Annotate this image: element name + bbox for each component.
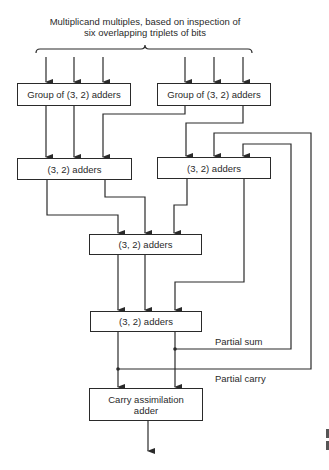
input-brace xyxy=(36,45,252,53)
carry-assimilation-line1: Carry assimilation xyxy=(108,394,184,405)
carry-assimilation-adder: Carry assimilation adder xyxy=(89,388,203,421)
group-adders-right: Group of (3, 2) adders xyxy=(157,83,271,106)
level2-adders-right: (3, 2) adders xyxy=(157,157,271,179)
group-adders-left-label: Group of (3, 2) adders xyxy=(27,89,120,100)
partial-carry-label: Partial carry xyxy=(215,373,266,384)
group-adders-right-label: Group of (3, 2) adders xyxy=(167,89,260,100)
level2-adders-left: (3, 2) adders xyxy=(17,158,132,180)
partial-sum-label: Partial sum xyxy=(215,336,263,347)
partial-carry-junction xyxy=(116,367,120,371)
level3-adders: (3, 2) adders xyxy=(89,234,202,255)
inputs-caption: Multiplicand multiples, based on inspect… xyxy=(0,16,290,38)
level4-adders: (3, 2) adders xyxy=(90,311,202,332)
inputs-caption-line1: Multiplicand multiples, based on inspect… xyxy=(0,16,290,27)
partial-sum-junction xyxy=(173,347,177,351)
level4-adders-label: (3, 2) adders xyxy=(119,316,173,327)
carry-assimilation-line2: adder xyxy=(134,405,158,416)
level2-adders-right-label: (3, 2) adders xyxy=(187,163,241,174)
inputs-caption-line2: six overlapping triplets of bits xyxy=(0,27,290,38)
level2-adders-left-label: (3, 2) adders xyxy=(48,164,102,175)
level3-adders-label: (3, 2) adders xyxy=(119,239,173,250)
group-adders-left: Group of (3, 2) adders xyxy=(17,83,131,106)
